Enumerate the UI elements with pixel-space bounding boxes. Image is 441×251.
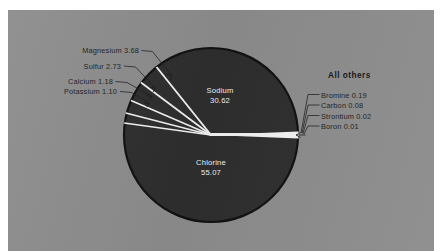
callout-calcium: Calcium 1.18 [8,77,113,86]
callout-magnesium: Magnesium 3.68 [8,46,139,55]
all-others-heading: All others [328,71,371,80]
slice-label-chlorine-name: Chlorine [196,158,226,167]
callout-carbon: Carbon 0.08 [321,101,363,110]
callout-bromine: Bromine 0.19 [321,91,367,100]
slice-label-sodium: Sodium 30.62 [184,86,256,106]
slice-label-sodium-value: 30.62 [184,96,256,106]
slice-label-chlorine-value: 55.07 [175,168,247,178]
figure-root: Sodium 30.62 Chlorine 55.07 Magnesium 3.… [0,0,441,251]
callout-potassium: Potassium 1.10 [8,87,117,96]
callout-sulfur: Sulfur 2.73 [8,62,121,71]
slice-label-chlorine: Chlorine 55.07 [175,158,247,178]
callout-strontium: Strontium 0.02 [321,112,371,121]
chart-panel: Sodium 30.62 Chlorine 55.07 Magnesium 3.… [8,10,434,251]
leader-lines-right [296,95,320,138]
callout-boron: Boron 0.01 [321,122,359,131]
slice-label-sodium-name: Sodium [207,86,234,95]
